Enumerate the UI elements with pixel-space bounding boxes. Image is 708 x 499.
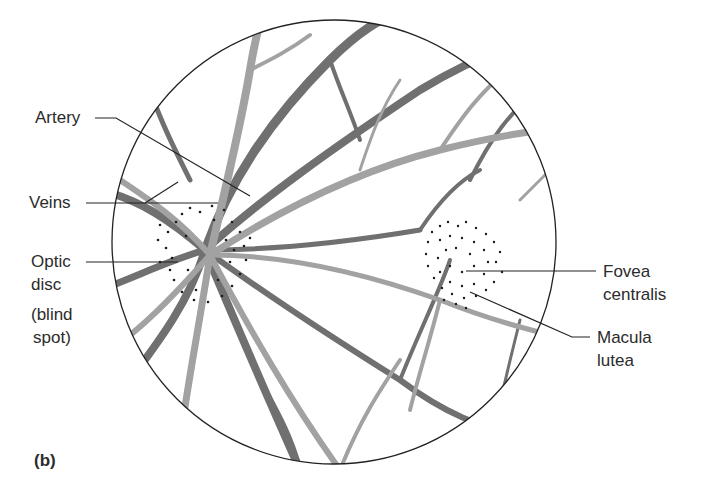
label-artery: Artery: [35, 107, 80, 128]
label-blind-spot-1: (blind: [31, 304, 73, 325]
veins-branch-leader: [145, 182, 178, 203]
panel-label: (b): [34, 451, 56, 471]
label-macula-1: Macula: [597, 327, 652, 348]
retina-diagram: [0, 0, 708, 499]
label-fovea-2: centralis: [603, 284, 666, 305]
label-veins: Veins: [29, 192, 71, 213]
label-fovea-1: Fovea: [603, 261, 650, 282]
label-macula-2: lutea: [597, 350, 634, 371]
label-blind-spot-2: spot): [33, 327, 71, 348]
veins: [100, 10, 560, 470]
arteries: [110, 5, 580, 470]
label-optic-disc-2: disc: [31, 274, 61, 295]
blood-vessels: [100, 5, 580, 470]
label-optic-disc-1: Optic: [31, 251, 71, 272]
